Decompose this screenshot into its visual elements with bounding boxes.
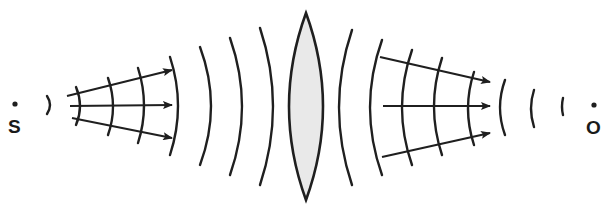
wavefront-arc [531, 90, 534, 127]
lens-outline [289, 13, 323, 200]
wavefront-arc [47, 96, 50, 114]
wavefront-arc [339, 30, 352, 185]
biconvex-lens [289, 13, 323, 200]
ray-arrow [67, 70, 172, 96]
incident-rays [67, 70, 172, 138]
wavefront-arc [468, 72, 474, 145]
ray-arrow [70, 105, 172, 106]
source-point [12, 101, 17, 106]
wavefront-arc [370, 40, 382, 175]
source-label: S [8, 117, 21, 136]
wavefront-arc [230, 38, 242, 175]
ray-arrow [72, 118, 172, 138]
converging-wavefronts [339, 30, 563, 185]
image-point-label: O [586, 118, 601, 137]
ray-arrow [380, 57, 490, 82]
diagram-canvas [0, 0, 604, 218]
wavefront-arc [200, 47, 211, 165]
wavefront-arc [402, 50, 412, 165]
wavefront-arc [562, 98, 563, 115]
converging-lens-diagram: S O [0, 0, 604, 218]
wavefront-arc [260, 28, 273, 185]
wavefront-arc [500, 80, 505, 135]
image-point [591, 102, 596, 107]
